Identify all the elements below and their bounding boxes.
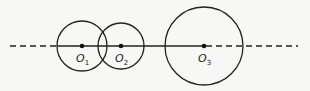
label-o2: O2 [115,52,128,67]
label-o3: O3 [198,52,211,67]
center-point-o3 [202,44,207,49]
label-o1: O1 [76,52,89,67]
center-point-o2 [119,44,124,49]
circles-diagram: O1 O2 O3 [0,0,310,91]
center-point-o1 [80,44,85,49]
